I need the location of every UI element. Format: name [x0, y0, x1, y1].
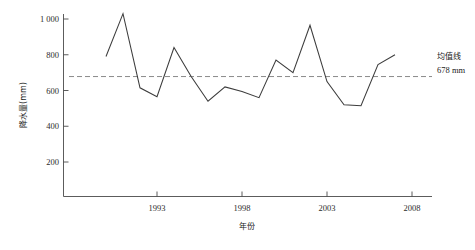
mean-line-annotation-label: 均值线	[437, 51, 461, 61]
y-tick-label: 400	[46, 121, 59, 131]
chart-canvas: 2004006008001 000 1993199820032008 降水量(m…	[0, 0, 475, 250]
precipitation-chart: 2004006008001 000 1993199820032008 降水量(m…	[0, 0, 475, 250]
y-axis-title: 降水量(mm)	[18, 82, 28, 128]
y-tick-label: 600	[46, 86, 59, 96]
precipitation-series-line	[106, 14, 395, 106]
y-tick-group: 2004006008001 000	[40, 14, 69, 167]
y-tick-label: 200	[46, 157, 59, 167]
axis-group	[64, 14, 433, 197]
y-tick-label: 800	[46, 50, 59, 60]
x-axis-title: 年份	[239, 221, 255, 231]
x-tick-label: 1993	[149, 203, 166, 213]
mean-line-annotation-value: 678 mm	[437, 65, 465, 75]
x-tick-group: 1993199820032008	[149, 192, 421, 214]
x-tick-label: 2008	[404, 203, 421, 213]
x-tick-label: 2003	[319, 203, 336, 213]
x-tick-label: 1998	[234, 203, 251, 213]
y-tick-label: 1 000	[40, 14, 59, 24]
